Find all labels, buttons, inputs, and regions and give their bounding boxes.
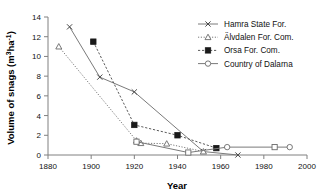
series-layer [56,24,293,157]
series-polyline [93,42,216,148]
y-tick-label: 12 [32,33,41,42]
marker-square-open [134,139,139,144]
legend-label-0: Hamra State For. [224,20,286,29]
snag-volume-chart: 188019001920194019601980200002468101214 … [0,0,320,193]
marker-square-filled [175,133,180,138]
y-tick-label: 0 [37,151,42,160]
x-tick-label: 2000 [298,162,316,171]
x-tick-label: 1920 [125,162,143,171]
legend-item-3: Country of Dalarna [198,60,293,69]
marker-square-filled [91,39,96,44]
legend-label-2: Orsa For. Com. [224,46,280,55]
legend-label-3: Country of Dalarna [224,60,293,69]
y-tick-label: 10 [32,52,41,61]
series-polyline [59,47,204,152]
marker-circle [224,144,229,149]
legend-item-0: Hamra State For. [198,20,286,29]
legend-item-2: Orsa For. Com. [198,46,280,55]
marker-triangle [56,44,62,49]
y-tick-label: 4 [37,112,42,121]
x-tick-label: 1960 [212,162,230,171]
y-tick-label: 14 [32,13,41,22]
marker-square-open [186,150,191,155]
series-2 [91,39,219,151]
x-tick-label: 1940 [169,162,187,171]
x-tick-label: 1980 [255,162,273,171]
marker-circle [287,144,292,149]
y-tick-label: 2 [37,131,42,140]
x-axis-title: Year [167,180,187,191]
legend-item-1: Älvdalen For. Com. [198,32,294,42]
y-tick-label: 6 [37,92,42,101]
marker-square-open [272,145,277,150]
y-axis-title: Volume of snags (m3ha-1) [5,31,16,145]
marker-square-filled [132,122,137,127]
marker-triangle [164,141,170,146]
legend-label-1: Älvdalen For. Com. [224,32,294,42]
chart-legend: Hamra State For.Älvdalen For. Com.Orsa F… [198,20,294,69]
series-1 [56,44,207,154]
y-tick-label: 8 [37,72,42,81]
x-tick-label: 1900 [82,162,100,171]
x-tick-label: 1880 [39,162,57,171]
marker-circle [205,61,210,66]
marker-square-filled [205,48,210,53]
chart-canvas: 188019001920194019601980200002468101214 … [0,0,320,193]
